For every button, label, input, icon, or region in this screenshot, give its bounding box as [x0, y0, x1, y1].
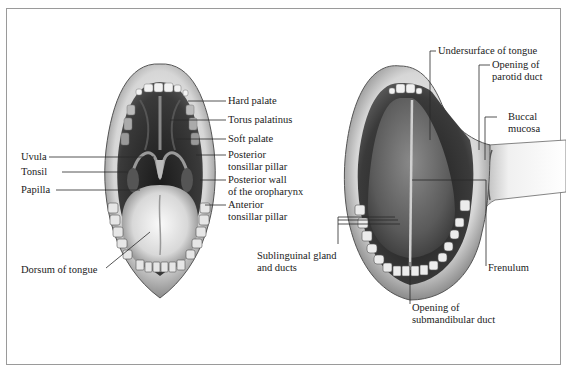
label-hard-palate: Hard palate [228, 95, 277, 107]
label-anterior-tonsillar-pillar: Anterior tonsillar pillar [228, 199, 287, 223]
label-papilla: Papilla [21, 184, 50, 196]
label-sublingual-gland-ducts: Sublinguinal gland and ducts [257, 250, 337, 274]
label-opening-submandibular-duct: Opening of submandibular duct [412, 302, 495, 326]
right-mouth [344, 66, 566, 300]
label-tonsil: Tonsil [21, 166, 47, 178]
label-frenulum: Frenulum [488, 262, 529, 274]
label-undersurface-of-tongue: Undersurface of tongue [438, 45, 537, 57]
label-posterior-tonsillar-pillar: Posterior tonsillar pillar [228, 149, 287, 173]
label-opening-parotid-duct: Opening of parotid duct [492, 59, 542, 83]
label-posterior-wall-oropharynx: Posterior wall of the oropharynx [228, 174, 303, 198]
left-mouth [105, 64, 216, 298]
label-dorsum-of-tongue: Dorsum of tongue [21, 264, 97, 276]
label-buccal-mucosa: Buccal mucosa [508, 111, 540, 135]
label-uvula: Uvula [21, 151, 47, 163]
label-soft-palate: Soft palate [228, 133, 273, 145]
label-torus-palatinus: Torus palatinus [228, 114, 292, 126]
